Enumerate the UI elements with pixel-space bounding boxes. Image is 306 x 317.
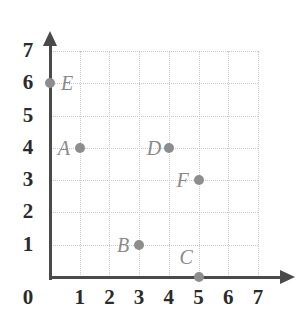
x-tick-label: 6 bbox=[217, 287, 239, 308]
y-tick-label: 5 bbox=[17, 105, 39, 126]
point-label-e: E bbox=[61, 73, 73, 93]
gridline-vertical bbox=[169, 51, 170, 277]
point-label-f: F bbox=[177, 170, 189, 190]
coordinate-plane: 012345671234567ABCDEF bbox=[0, 0, 306, 317]
data-point-a[interactable] bbox=[75, 143, 85, 153]
x-tick-label: 2 bbox=[98, 287, 120, 308]
y-axis-arrow-icon bbox=[43, 31, 57, 46]
gridline-horizontal bbox=[50, 212, 258, 213]
gridline-horizontal bbox=[50, 83, 258, 84]
x-axis bbox=[49, 276, 280, 279]
x-tick-label: 5 bbox=[188, 287, 210, 308]
data-point-b[interactable] bbox=[134, 240, 144, 250]
data-point-d[interactable] bbox=[164, 143, 174, 153]
data-point-c[interactable] bbox=[194, 272, 204, 282]
data-point-e[interactable] bbox=[45, 78, 55, 88]
y-tick-label: 2 bbox=[17, 201, 39, 222]
origin-tick-label: 0 bbox=[17, 287, 39, 308]
y-tick-label: 1 bbox=[17, 234, 39, 255]
gridline-vertical bbox=[199, 51, 200, 277]
x-tick-label: 7 bbox=[247, 287, 269, 308]
x-tick-label: 3 bbox=[128, 287, 150, 308]
gridline-vertical bbox=[258, 51, 259, 277]
y-tick-label: 6 bbox=[17, 72, 39, 93]
point-label-c: C bbox=[180, 247, 193, 267]
x-tick-label: 4 bbox=[158, 287, 180, 308]
y-tick-label: 4 bbox=[17, 137, 39, 158]
point-label-d: D bbox=[147, 138, 161, 158]
gridline-vertical bbox=[228, 51, 229, 277]
gridline-horizontal bbox=[50, 180, 258, 181]
point-label-b: B bbox=[117, 235, 129, 255]
gridline-vertical bbox=[109, 51, 110, 277]
y-tick-label: 7 bbox=[17, 40, 39, 61]
gridline-vertical bbox=[80, 51, 81, 277]
gridline-horizontal bbox=[50, 116, 258, 117]
x-tick-label: 1 bbox=[69, 287, 91, 308]
y-tick-label: 3 bbox=[17, 169, 39, 190]
point-label-a: A bbox=[58, 138, 70, 158]
gridline-horizontal bbox=[50, 245, 258, 246]
x-axis-arrow-icon bbox=[280, 270, 295, 284]
gridline-horizontal bbox=[50, 51, 258, 52]
data-point-f[interactable] bbox=[194, 175, 204, 185]
